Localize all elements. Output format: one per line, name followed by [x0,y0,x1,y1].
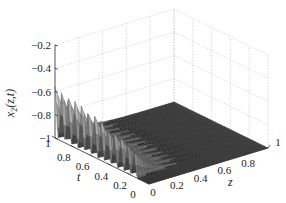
vertical-tick-mark [55,138,58,139]
z-axis-label: z [227,175,233,189]
grid-line [174,32,268,78]
z-tick-label: 0.2 [170,179,184,191]
surface-plot: −0.2−0.4−0.6−0.8−100.20.40.60.8100.20.40… [0,0,286,203]
vertical-axis-label-args: (z,t) [3,89,17,108]
z-tick-mark [268,145,270,148]
grid-line [174,56,268,102]
t-tick-label: 0.4 [95,170,109,182]
grid-line [55,32,174,68]
t-tick-label: 0 [130,188,136,200]
grid-line [55,9,174,45]
vertical-axis-label: x2(z,t) [3,89,19,118]
z-tick-label: 0.4 [194,172,208,184]
vertical-tick-label: −0.4 [31,62,51,74]
grid-line [174,9,268,55]
vertical-tick-mark [55,68,58,69]
vertical-tick-label: −0.2 [31,39,51,51]
t-tick-label: 0.8 [57,151,71,163]
svg-text:x2(z,t): x2(z,t) [3,89,19,118]
vertical-tick-label: −0.6 [31,86,51,98]
t-tick-mark [52,136,55,138]
z-tick-label: 0 [150,186,156,198]
z-tick-label: 0.8 [241,157,255,169]
vertical-tick-mark [55,45,58,46]
z-tick-label: 1 [275,136,281,148]
t-tick-label: 1 [45,137,51,149]
t-tick-label: 0.2 [113,179,127,191]
grid-line [55,56,174,92]
vertical-tick-label: −0.8 [31,109,51,121]
